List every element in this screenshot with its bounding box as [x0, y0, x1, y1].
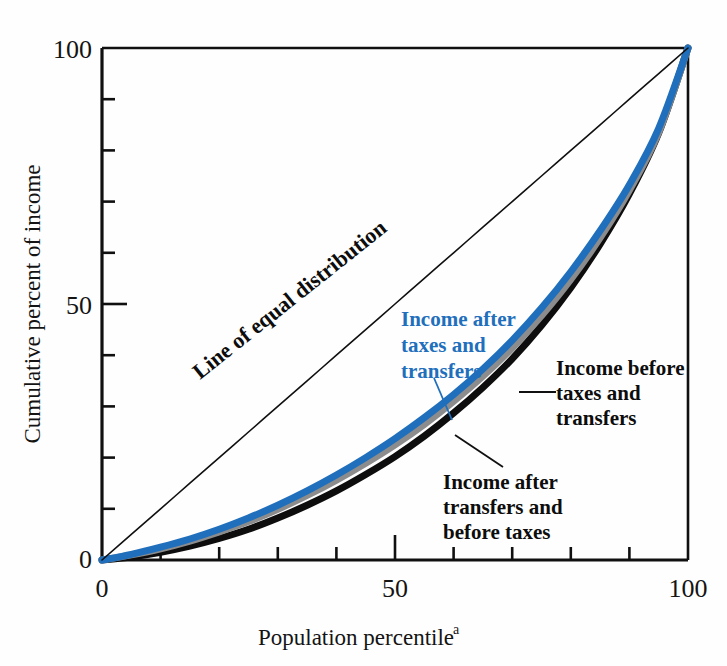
annotation-line-1: Income before — [556, 356, 685, 380]
chart-canvas: 100 50 0 0 50 100 Cumulative percent of … — [0, 0, 727, 666]
curve-line-of-equal-distribution — [102, 48, 688, 560]
annotation-line-2: transfers and — [443, 495, 563, 519]
annotation-line-of-equal-distribution: Line of equal distribution — [188, 215, 392, 384]
annotation-line-1: Income after — [443, 470, 558, 494]
data-curves — [102, 48, 688, 560]
leader-income-after-transfers-and-before-taxes — [455, 435, 503, 467]
y-tick-label-50: 50 — [66, 291, 92, 320]
y-tick-label-100: 100 — [53, 35, 92, 64]
lorenz-curve-figure: 100 50 0 0 50 100 Cumulative percent of … — [0, 0, 727, 666]
x-axis-title: Population percentile — [258, 625, 454, 650]
annotation-line-3: before taxes — [443, 520, 551, 544]
annotation-line-1: Income after — [401, 307, 516, 331]
y-tick-label-0: 0 — [79, 545, 92, 574]
annotation-line-2: taxes and — [556, 381, 641, 405]
annotation-line-2: taxes and — [401, 333, 486, 357]
x-tick-label-0: 0 — [96, 574, 109, 603]
annotation-line-3: transfers — [556, 406, 636, 430]
x-tick-label-100: 100 — [669, 574, 708, 603]
x-axis-ticks — [161, 535, 630, 560]
y-axis-title: Cumulative percent of income — [20, 164, 45, 443]
y-axis-ticks — [102, 99, 127, 509]
x-axis-title-superscript: a — [453, 622, 460, 637]
annotation-line-3: transfers — [401, 359, 481, 383]
annotation-income-before-taxes-and-transfers: Income before taxes and transfers — [556, 356, 685, 430]
x-tick-label-50: 50 — [382, 574, 408, 603]
annotation-income-after-transfers-and-before-taxes: Income after transfers and before taxes — [443, 470, 563, 544]
